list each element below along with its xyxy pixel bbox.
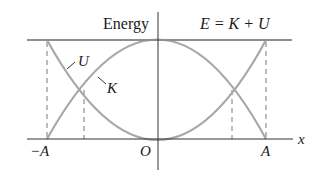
x-axis-label: x xyxy=(297,131,305,147)
k-leader-line xyxy=(98,77,106,84)
energy-equation: E = K + U xyxy=(199,15,271,32)
energy-axis-label: Energy xyxy=(103,15,149,33)
pos-amplitude-label: A xyxy=(260,143,271,159)
u-leader-line xyxy=(67,62,75,69)
u-label: U xyxy=(78,53,90,69)
energy-diagram: Energy E = K + U U K x −A O A xyxy=(0,0,315,172)
origin-label: O xyxy=(140,143,151,159)
neg-amplitude-label: −A xyxy=(30,143,50,159)
k-label: K xyxy=(106,80,118,96)
